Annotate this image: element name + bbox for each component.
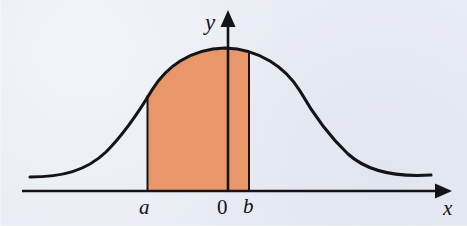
tick-label-a: a xyxy=(139,197,150,218)
y-axis-arrow-icon xyxy=(221,10,236,27)
tick-label-b: b xyxy=(243,196,254,217)
y-axis-label: y xyxy=(205,11,215,34)
tick-label-origin: 0 xyxy=(217,197,228,218)
normal-curve-figure: y x a 0 b xyxy=(0,0,467,226)
x-axis-label: x xyxy=(443,198,452,219)
shaded-area-fill xyxy=(147,20,249,191)
plot-canvas xyxy=(0,0,467,226)
shaded-area-under-curve xyxy=(147,20,249,191)
